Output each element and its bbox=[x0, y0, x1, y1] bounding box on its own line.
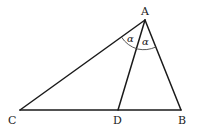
angle-label-alpha-left: α bbox=[127, 33, 134, 44]
vertex-label-D: D bbox=[113, 114, 122, 127]
vertex-label-B: B bbox=[178, 114, 186, 127]
triangle-diagram: α α A C D B bbox=[0, 0, 202, 134]
angle-arc-DAB bbox=[138, 47, 156, 50]
vertex-label-C: C bbox=[8, 114, 16, 127]
angle-label-alpha-right: α bbox=[142, 36, 149, 47]
vertex-label-A: A bbox=[140, 5, 150, 18]
segment-AB bbox=[145, 20, 181, 110]
